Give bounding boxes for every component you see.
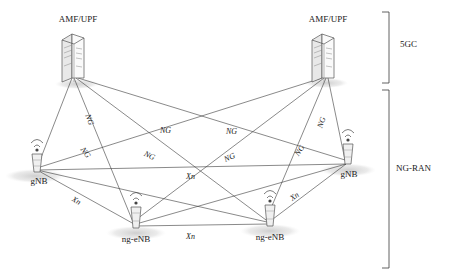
node-label-amf-upf-right: AMF/UPF	[298, 14, 358, 24]
diagram-canvas: AMF/UPF AMF/UPF gNB gNB ng-eNB ng-eNB NG…	[0, 0, 458, 277]
base-station-gnb-right	[342, 130, 354, 165]
edge-label-xn-4: Xn	[186, 232, 195, 241]
core-server-left	[62, 34, 84, 82]
node-label-ng-enb-right: ng-eNB	[245, 232, 295, 242]
base-station-ng-enb-right	[264, 191, 276, 227]
node-label-amf-upf-left: AMF/UPF	[48, 14, 108, 24]
edge-label-ng-1: NG	[160, 126, 171, 135]
node-label-gnb-left: gNB	[24, 176, 54, 186]
edge-label-ng-2: NG	[226, 127, 237, 136]
node-label-ng-enb-left: ng-eNB	[111, 234, 161, 244]
node-label-gnb-right: gNB	[334, 169, 364, 179]
base-station-gnb-left	[31, 140, 43, 173]
edge-label-xn-1: Xn	[186, 172, 195, 181]
core-server-right	[312, 34, 334, 82]
group-label-5gc: 5GC	[400, 39, 417, 49]
device-icons	[0, 0, 458, 277]
group-label-ng-ran: NG-RAN	[396, 163, 431, 173]
base-station-ng-enb-left	[130, 193, 142, 229]
